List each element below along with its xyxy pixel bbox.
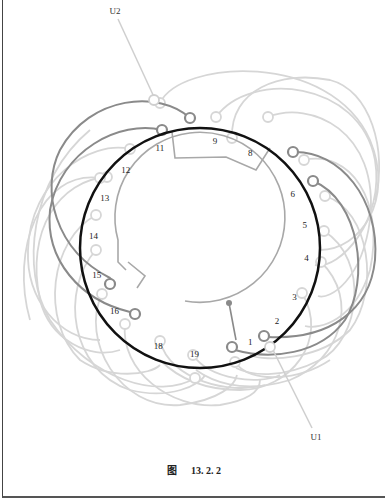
inactive-coil-end-14 <box>120 319 130 329</box>
inactive-coil-end-11 <box>91 210 101 220</box>
slot-label-9: 9 <box>213 136 218 146</box>
inactive-coil-end-18 <box>190 373 200 383</box>
inactive-coil-end-2 <box>211 112 221 122</box>
inner-junction-dot <box>226 300 232 306</box>
active-coil-end-4 <box>308 176 318 186</box>
slot-label-12: 12 <box>121 165 130 175</box>
inactive-coil-end-4 <box>299 155 309 165</box>
slot-label-4: 4 <box>304 253 309 263</box>
inactive-coil-end-6 <box>319 226 329 236</box>
slot-label-14: 14 <box>89 231 99 241</box>
slot-label-15: 15 <box>92 270 102 280</box>
u1-lead <box>273 350 312 428</box>
inner-jog-top <box>172 132 270 170</box>
inner-lead-bottom <box>229 303 236 340</box>
active-coil-end-3 <box>288 147 298 157</box>
inactive-coils <box>24 71 379 405</box>
slot-label-3: 3 <box>292 292 297 302</box>
u1-terminal-end <box>265 342 275 352</box>
slot-label-8: 8 <box>248 148 253 158</box>
winding-diagram: 123456891112131415161819 U1U2 <box>0 0 388 502</box>
active-coil-end-7 <box>259 331 269 341</box>
inactive-coil-end-3 <box>263 112 273 122</box>
slot-label-1: 1 <box>248 337 253 347</box>
inactive-coil-end-12 <box>91 245 101 255</box>
u1-label: U1 <box>311 432 322 442</box>
active-coil-end-1 <box>185 113 195 123</box>
slot-label-11: 11 <box>156 143 165 153</box>
inactive-coil-6 <box>236 231 354 374</box>
inner-jog-left <box>128 262 145 288</box>
slot-label-13: 13 <box>100 193 110 203</box>
stator-ring <box>80 128 320 368</box>
slot-label-2: 2 <box>275 316 280 326</box>
active-coil-end-5 <box>105 279 115 289</box>
active-coil-1 <box>52 101 190 283</box>
caption-prefix: 图 <box>167 465 177 476</box>
active-coil-end-6 <box>130 309 140 319</box>
slot-label-18: 18 <box>154 341 164 351</box>
inactive-coil-end-13 <box>97 289 107 299</box>
active-coil-3 <box>268 152 375 337</box>
inactive-coil-end-8 <box>297 288 307 298</box>
u2-lead <box>118 19 154 97</box>
inner-conductor <box>115 132 285 340</box>
active-coil-4 <box>235 181 358 355</box>
slot-label-6: 6 <box>290 189 295 199</box>
inactive-coil-1 <box>160 71 378 250</box>
active-coil-end-8 <box>227 342 237 352</box>
slot-label-16: 16 <box>110 306 120 316</box>
u2-terminal-end <box>149 95 159 105</box>
slot-label-5: 5 <box>302 220 307 230</box>
figure-caption: 图13. 2. 2 <box>0 462 388 477</box>
inactive-coil-end-5 <box>320 191 330 201</box>
slot-label-19: 19 <box>190 349 200 359</box>
u2-label: U2 <box>110 6 121 16</box>
caption-number: 13. 2. 2 <box>191 465 221 476</box>
